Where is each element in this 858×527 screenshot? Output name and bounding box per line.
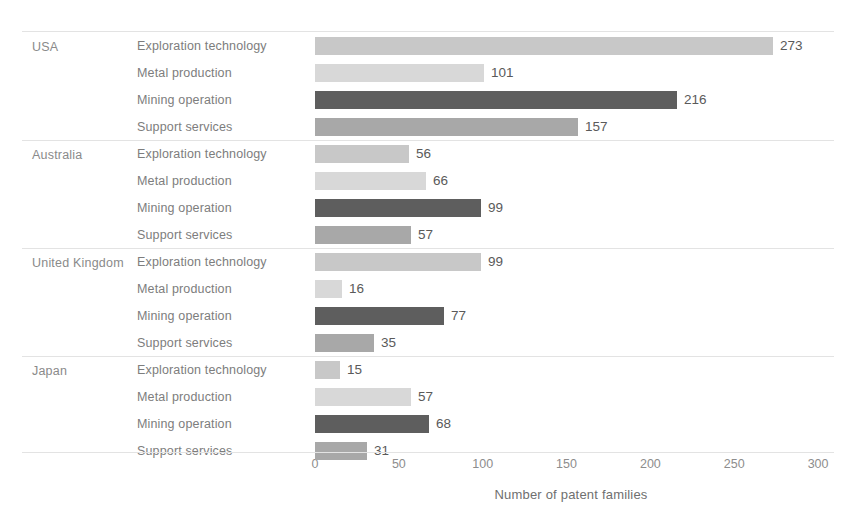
bar: [315, 172, 426, 190]
x-axis-title: Number of patent families: [315, 487, 827, 502]
category-label: Exploration technology: [137, 254, 267, 270]
category-label: Mining operation: [137, 200, 232, 216]
country-group: AustraliaExploration technology56Metal p…: [0, 141, 858, 249]
bar: [315, 226, 411, 244]
bar-value-label: 35: [381, 334, 396, 352]
group-separator: [22, 452, 834, 453]
bar-row: Mining operation99: [0, 195, 858, 222]
category-label: Metal production: [137, 173, 232, 189]
bar-row: Metal production57: [0, 384, 858, 411]
bar-value-label: 99: [488, 253, 503, 271]
bar-value-label: 68: [436, 415, 451, 433]
bar-row: Support services35: [0, 330, 858, 357]
bar: [315, 388, 411, 406]
bar: [315, 37, 773, 55]
bar: [315, 199, 481, 217]
bar-value-label: 273: [780, 37, 803, 55]
bar-value-label: 15: [347, 361, 362, 379]
group-separator: [22, 31, 834, 32]
bar: [315, 91, 677, 109]
bar-row: Mining operation216: [0, 87, 858, 114]
category-label: Metal production: [137, 281, 232, 297]
bar-row: Metal production101: [0, 60, 858, 87]
country-group: USAExploration technology273Metal produc…: [0, 33, 858, 141]
bar-value-label: 66: [433, 172, 448, 190]
category-label: Metal production: [137, 65, 232, 81]
country-group: United KingdomExploration technology99Me…: [0, 249, 858, 357]
bar-row: Exploration technology99: [0, 249, 858, 276]
bar: [315, 64, 484, 82]
category-label: Metal production: [137, 389, 232, 405]
category-label: Mining operation: [137, 416, 232, 432]
bar-row: Mining operation77: [0, 303, 858, 330]
bar: [315, 118, 578, 136]
bar-value-label: 31: [374, 442, 389, 460]
bar-row: Support services57: [0, 222, 858, 249]
bar-row: Metal production66: [0, 168, 858, 195]
bar: [315, 442, 367, 460]
bar-value-label: 101: [491, 64, 514, 82]
bar: [315, 334, 374, 352]
bar-value-label: 99: [488, 199, 503, 217]
bar-row: Exploration technology15: [0, 357, 858, 384]
category-label: Exploration technology: [137, 362, 267, 378]
bar-value-label: 77: [451, 307, 466, 325]
bar-value-label: 57: [418, 226, 433, 244]
category-label: Mining operation: [137, 92, 232, 108]
bar-chart: 050100150200250300 Number of patent fami…: [0, 0, 858, 527]
bar: [315, 307, 444, 325]
bar: [315, 361, 340, 379]
country-group: JapanExploration technology15Metal produ…: [0, 357, 858, 465]
bar: [315, 415, 429, 433]
category-label: Support services: [137, 443, 233, 459]
bar: [315, 253, 481, 271]
bar-row: Mining operation68: [0, 411, 858, 438]
bar-value-label: 216: [684, 91, 707, 109]
bar-value-label: 157: [585, 118, 608, 136]
category-label: Support services: [137, 227, 233, 243]
bar-row: Exploration technology56: [0, 141, 858, 168]
bar-value-label: 57: [418, 388, 433, 406]
category-label: Mining operation: [137, 308, 232, 324]
bar-row: Exploration technology273: [0, 33, 858, 60]
category-label: Support services: [137, 335, 233, 351]
category-label: Exploration technology: [137, 146, 267, 162]
bar-row: Support services157: [0, 114, 858, 141]
category-label: Support services: [137, 119, 233, 135]
bar-row: Metal production16: [0, 276, 858, 303]
bar: [315, 280, 342, 298]
bar-value-label: 16: [349, 280, 364, 298]
category-label: Exploration technology: [137, 38, 267, 54]
bar: [315, 145, 409, 163]
bar-value-label: 56: [416, 145, 431, 163]
